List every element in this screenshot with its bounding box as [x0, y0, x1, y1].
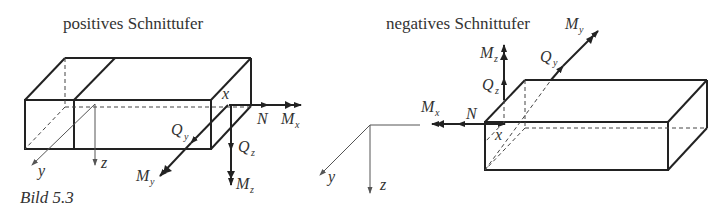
- shear-force-z-label: Q: [238, 138, 250, 155]
- torsion-moment-label: M: [280, 110, 296, 127]
- negative-cut-title: negatives Schnittufer: [386, 14, 530, 33]
- svg-text:z: z: [493, 53, 498, 64]
- svg-text:y: y: [552, 57, 558, 68]
- torsion-moment-label-right: M: [420, 98, 436, 115]
- shear-force-y-label-right: Q: [540, 48, 552, 65]
- svg-text:z: z: [250, 147, 255, 158]
- bending-moment-y-label: M: [135, 167, 151, 184]
- beam-box-left: [25, 58, 251, 149]
- positive-cut-title: positives Schnittufer: [63, 14, 204, 33]
- force-vectors-right: N M x Q z M z Q y M y: [420, 15, 598, 170]
- svg-text:z: z: [494, 85, 499, 96]
- figure-caption: Bild 5.3: [20, 188, 74, 207]
- negative-cut-panel: negatives Schnittufer y z x: [320, 14, 707, 193]
- svg-text:z: z: [249, 184, 254, 195]
- x-axis-label: x: [221, 85, 229, 102]
- bending-moment-z-label-right: M: [479, 44, 495, 61]
- z-axis-label: z: [100, 154, 108, 171]
- y-axis-label-right: y: [326, 168, 336, 186]
- svg-text:y: y: [149, 176, 155, 187]
- normal-force-label-right: N: [465, 105, 478, 122]
- svg-text:y: y: [183, 131, 189, 142]
- coordinate-axes-right: y z x: [320, 125, 502, 193]
- positive-cut-panel: positives Schnittufer y z x: [20, 14, 301, 207]
- svg-text:x: x: [434, 107, 440, 118]
- y-axis-label: y: [36, 162, 46, 180]
- shear-force-y-label: Q: [171, 121, 183, 138]
- bending-moment-y-label-right: M: [564, 15, 580, 32]
- bending-moment-z-label: M: [235, 175, 251, 192]
- beam-box-right: [485, 80, 707, 170]
- svg-text:x: x: [294, 119, 300, 130]
- section-forces-diagram: positives Schnittufer y z x: [0, 0, 726, 208]
- svg-text:y: y: [578, 24, 584, 35]
- normal-force-label: N: [256, 110, 269, 127]
- z-axis-label-right: z: [379, 176, 387, 193]
- shear-force-z-label-right: Q: [482, 76, 494, 93]
